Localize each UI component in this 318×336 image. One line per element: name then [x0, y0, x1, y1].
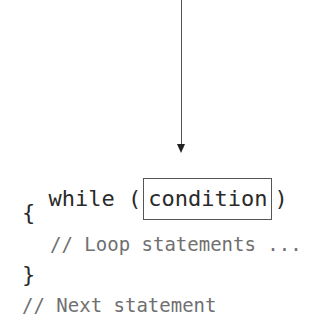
loop-comment: // Loop statements ...	[50, 233, 302, 255]
next-comment: // Next statement	[22, 294, 216, 316]
open-brace: {	[22, 200, 35, 225]
arrow-head-icon	[177, 144, 185, 153]
while-line: while (condition)	[22, 153, 288, 220]
open-paren: (	[128, 186, 141, 211]
close-paren: )	[274, 186, 287, 211]
while-keyword: while	[49, 186, 115, 211]
close-brace: }	[22, 262, 35, 287]
condition-box: condition	[143, 178, 272, 220]
arrow-line	[181, 0, 182, 146]
